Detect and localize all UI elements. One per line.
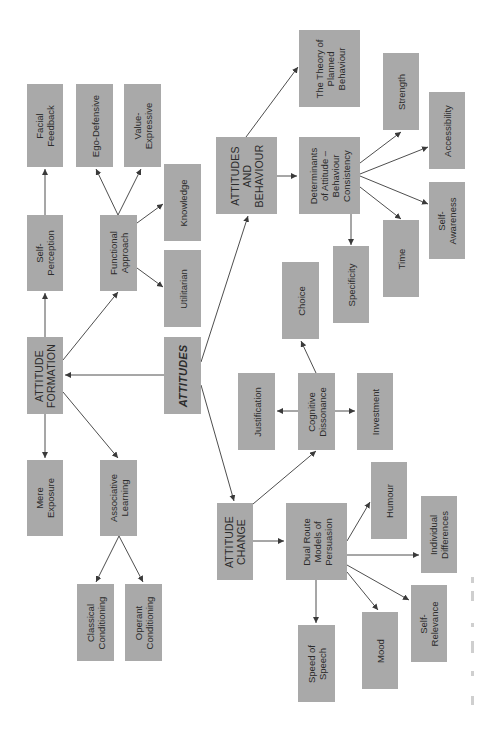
node-label: ATTITUDES [177, 344, 189, 407]
node-self-perception: Self- Perception [27, 215, 63, 291]
edge-formation-functional [63, 292, 118, 360]
node-label: Self- Perception [34, 230, 56, 275]
node-label: Utilitarian [177, 269, 188, 309]
node-label: Cognitive Dissonance [306, 387, 328, 437]
edge-dualroute-mood [347, 572, 378, 610]
node-humour: Humour [371, 462, 407, 539]
node-label: Ego-Defensive [89, 94, 100, 156]
edge-associative-classical [96, 536, 119, 582]
node-label: Self- Awareness [436, 197, 458, 244]
node-label: Humour [384, 484, 395, 518]
edge-dissonance-choice [301, 341, 316, 373]
node-mood: Mood [362, 612, 398, 689]
node-label: Operant Conditioning [133, 596, 155, 649]
node-dual-route-models: Dual Route Models of Persuasion [286, 503, 347, 580]
node-label: Functional Approach [108, 231, 130, 275]
edge-dualroute-selfrelevance [347, 565, 409, 600]
edge-formation-associative [63, 392, 118, 458]
edge-determinants-accessibility [360, 147, 428, 174]
node-investment: Investment [357, 373, 393, 450]
node-theory-planned-behaviour: The Theory of Planned Behaviour [299, 30, 360, 107]
node-label: Accessibility [442, 105, 453, 157]
node-label: Speed of Speech [306, 644, 328, 682]
node-label: The Theory of Planned Behaviour [313, 39, 346, 98]
node-associative-learning: Associative Learning [100, 460, 137, 536]
node-speed-of-speech: Speed of Speech [298, 625, 335, 702]
node-value-expressive: Value- Expressive [124, 84, 161, 167]
node-self-relevance: Self- Relevance [411, 585, 447, 662]
node-accessibility: Accessibility [429, 92, 465, 169]
node-cognitive-dissonance: Cognitive Dissonance [298, 373, 335, 450]
node-label: ATTITUDES AND BEHAVIOUR [229, 144, 265, 207]
node-utilitarian: Utilitarian [164, 250, 201, 327]
node-label: Mood [375, 639, 386, 663]
node-ego-defensive: Ego-Defensive [76, 84, 113, 167]
edge-functional-knowledge [137, 204, 163, 223]
node-label: ATTITUDE CHANGE [223, 515, 247, 567]
node-label: Choice [295, 286, 306, 316]
node-facial-feedback: Facial Feedback [27, 84, 63, 167]
node-label: Strength [396, 74, 407, 110]
node-attitude-formation: ATTITUDE FORMATION [27, 337, 63, 414]
edge-functional-valueexpressive [118, 169, 141, 215]
node-attitudes-root: ATTITUDES [164, 337, 201, 414]
node-self-awareness: Self- Awareness [429, 182, 465, 259]
node-label: Investment [370, 388, 381, 434]
edge-behaviour-theory [246, 67, 298, 137]
node-label: Specificity [346, 263, 357, 306]
node-label: Determinants of Attitude – Behaviour Con… [308, 147, 352, 204]
node-choice: Choice [282, 262, 319, 339]
edge-dualroute-humour [347, 502, 370, 541]
node-operant-conditioning: Operant Conditioning [125, 584, 162, 661]
node-label: Justification [251, 387, 262, 437]
node-specificity: Specificity [333, 246, 369, 323]
node-label: Facial Feedback [34, 105, 56, 147]
edge-associative-operant [119, 536, 143, 582]
node-classical-conditioning: Classical Conditioning [77, 584, 114, 661]
node-determinants: Determinants of Attitude – Behaviour Con… [299, 137, 360, 214]
edge-determinants-strength [360, 132, 401, 163]
edge-functional-utilitarian [137, 268, 163, 287]
edge-change-dissonance [253, 451, 316, 504]
node-label: Knowledge [177, 179, 188, 226]
node-time: Time [383, 220, 419, 297]
node-label: Mere Exposure [34, 478, 56, 518]
node-justification: Justification [238, 373, 275, 450]
edge-attitudes-behaviour [201, 216, 248, 362]
node-attitudes-and-behaviour: ATTITUDES AND BEHAVIOUR [216, 137, 277, 214]
node-label: Dual Route Models of Persuasion [300, 518, 333, 566]
figure-caption-fragment [470, 575, 476, 725]
edge-determinants-time [360, 187, 401, 219]
node-label: Individual Differences [428, 511, 450, 559]
edge-attitudes-change [201, 385, 234, 501]
node-mere-exposure: Mere Exposure [27, 460, 63, 536]
node-attitude-change: ATTITUDE CHANGE [217, 503, 253, 580]
node-label: Associative Learning [108, 474, 130, 522]
node-knowledge: Knowledge [164, 164, 201, 241]
node-label: ATTITUDE FORMATION [33, 343, 57, 407]
node-individual-differences: Individual Differences [421, 496, 457, 573]
edge-functional-egodefensive [96, 169, 118, 215]
node-strength: Strength [383, 53, 419, 130]
attitudes-concept-map: Facial Feedback Ego-Defensive Value- Exp… [0, 0, 483, 731]
node-functional-approach: Functional Approach [100, 215, 137, 291]
node-label: Self- Relevance [418, 601, 440, 646]
node-label: Time [396, 248, 407, 269]
node-label: Value- Expressive [132, 102, 154, 148]
edge-determinants-selfawareness [360, 176, 428, 204]
node-label: Classical Conditioning [85, 596, 107, 649]
